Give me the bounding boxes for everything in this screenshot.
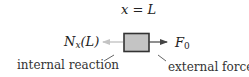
external-force-leader-line bbox=[158, 55, 166, 61]
position-variable: x bbox=[121, 2, 128, 17]
external-force-symbol: F bbox=[175, 35, 184, 50]
external-force-label: F0 bbox=[175, 35, 190, 51]
position-value: L bbox=[148, 2, 157, 17]
internal-force-symbol: N bbox=[64, 34, 75, 49]
body-block bbox=[124, 34, 149, 52]
internal-reaction-annotation: internal reaction bbox=[17, 58, 119, 72]
equals-sign: = bbox=[132, 2, 143, 17]
internal-force-label: Nx(L) bbox=[64, 34, 99, 50]
position-label: x = L bbox=[121, 2, 156, 17]
external-force-annotation: external force bbox=[168, 60, 249, 74]
internal-force-argument: (L) bbox=[80, 34, 99, 49]
external-force-subscript: 0 bbox=[184, 41, 190, 51]
